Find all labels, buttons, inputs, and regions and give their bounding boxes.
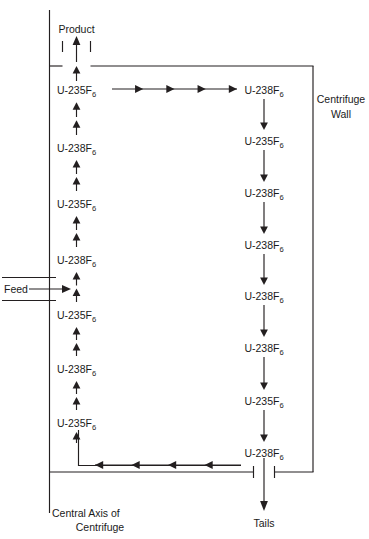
- centrifuge-cascade-diagram: Product Feed Tails U-235F6U-238F6U-235F6…: [0, 0, 369, 539]
- inner-column-arrow: [73, 272, 81, 286]
- centrifuge-wall-label-line2: Wall: [331, 108, 351, 120]
- wall-column-arrow: [260, 357, 268, 390]
- inner-column-arrow: [73, 233, 81, 247]
- product-label: Product: [58, 23, 94, 35]
- inner-column-arrow: [73, 327, 81, 340]
- wall-column-label: U-238F6: [244, 342, 283, 357]
- feed-label: Feed: [4, 283, 28, 295]
- product-outlet: [63, 36, 91, 56]
- inner-column-arrow: [73, 177, 81, 191]
- top-transfer-arrowhead: [135, 85, 143, 93]
- diagram-canvas: Product Feed Tails U-235F6U-238F6U-235F6…: [0, 0, 369, 539]
- inner-column-arrow: [73, 432, 81, 443]
- inner-column-arrow: [73, 343, 81, 356]
- wall-column-label: U-235F6: [244, 135, 283, 150]
- inner-column-arrow: [73, 120, 81, 135]
- top-transfer-arrowhead: [198, 85, 206, 93]
- central-axis-label-line1: Central Axis of: [52, 507, 120, 519]
- inner-column-labels: U-235F6U-238F6U-235F6U-238F6U-235F6U-238…: [57, 84, 96, 432]
- wall-column-label: U-238F6: [244, 187, 283, 202]
- wall-column-arrow: [260, 150, 268, 182]
- tails-label: Tails: [253, 517, 274, 529]
- inner-column-arrow: [73, 397, 81, 410]
- inner-column-arrow: [73, 381, 81, 394]
- wall-column-label: U-238F6: [244, 84, 283, 99]
- inner-column-label: U-238F6: [57, 254, 96, 269]
- inner-column-label: U-235F6: [57, 84, 96, 99]
- inner-column-arrow: [73, 216, 81, 230]
- wall-column-label: U-235F6: [244, 395, 283, 410]
- tails-outlet: [260, 458, 268, 511]
- bottom-transfer-elbow: [79, 430, 242, 466]
- inner-column-label: U-235F6: [57, 309, 96, 324]
- inner-column-arrow: [73, 288, 81, 302]
- inner-column-label: U-235F6: [57, 417, 96, 432]
- wall-column-label: U-238F6: [244, 239, 283, 254]
- wall-column-arrow: [260, 410, 268, 442]
- wall-column-arrow: [260, 254, 268, 285]
- wall-column-arrow: [260, 202, 268, 234]
- inner-column-label: U-238F6: [57, 142, 96, 157]
- inner-column-arrow: [73, 66, 81, 81]
- top-transfer-arrowhead: [229, 85, 237, 93]
- wall-column-label: U-238F6: [244, 290, 283, 305]
- bottom-boundary-line: [50, 466, 314, 478]
- inner-column-label: U-238F6: [57, 363, 96, 378]
- wall-column-arrow: [260, 99, 268, 130]
- wall-column-arrows: [260, 99, 268, 442]
- inner-column-arrow: [73, 160, 81, 174]
- central-axis-label-line2: Centrifuge: [76, 521, 125, 533]
- inner-column-label: U-235F6: [57, 198, 96, 213]
- top-transfer-arrowhead: [166, 85, 174, 93]
- inner-column-arrow: [73, 102, 81, 117]
- centrifuge-wall-label-line1: Centrifuge: [317, 93, 366, 105]
- wall-column-arrow: [260, 305, 268, 337]
- top-transfer-arrows: [112, 85, 237, 93]
